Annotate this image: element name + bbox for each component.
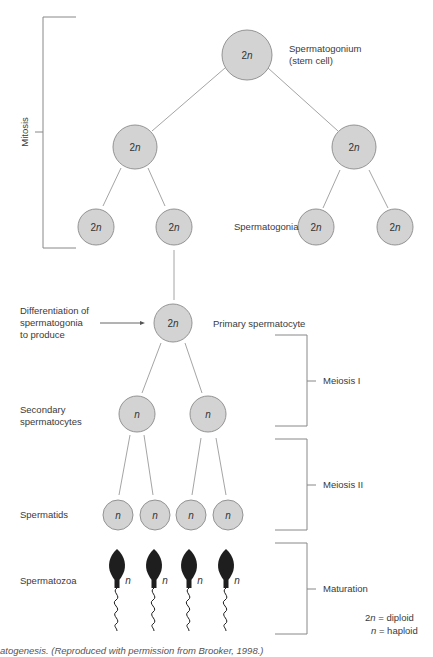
spermatozoon-4 — [218, 549, 234, 631]
mitosis-bracket-label: Mitosis — [19, 114, 31, 150]
meiosis-2-bracket — [275, 439, 316, 530]
spermatid-2-label: n — [152, 510, 158, 521]
primary-spermatocyte-label: Primary spermatocyte — [213, 318, 305, 330]
legend-diploid: 2n = diploid — [365, 612, 414, 624]
secondary-1-label: n — [134, 409, 140, 420]
spermatozoon-3 — [181, 549, 197, 631]
maturation-bracket — [275, 543, 316, 634]
spermatozoa-label: Spermatozoa — [20, 575, 77, 587]
spermatid-3-label: n — [188, 510, 194, 521]
primary-label: 2n — [167, 318, 179, 329]
mitosis-bracket — [35, 17, 76, 248]
spermatozoon-2-label: n — [162, 575, 168, 586]
meiosis-1-label: Meiosis I — [323, 375, 360, 387]
spermatozoon-4-label: n — [234, 575, 240, 586]
spermatids-label: Spermatids — [20, 509, 68, 521]
l3-1-label: 2n — [90, 222, 102, 233]
meiosis-1-bracket — [275, 335, 316, 426]
secondary-2-label: n — [205, 409, 211, 420]
l3-3-label: 2n — [310, 222, 322, 233]
secondary-spermatocytes-label: Secondary spermatocytes — [20, 404, 82, 428]
spermatozoon-2 — [146, 549, 162, 631]
figure-caption: atogenesis. (Reproduced with permission … — [0, 645, 264, 657]
l2-left-label: 2n — [129, 142, 141, 153]
spermatogonium-label: Spermatogonium (stem cell) — [289, 43, 361, 67]
legend-haploid: n = haploid — [371, 625, 418, 637]
spermatid-4-label: n — [225, 510, 231, 521]
spermatid-1-label: n — [115, 510, 121, 521]
maturation-label: Maturation — [323, 583, 368, 595]
spermatozoon-3-label: n — [197, 575, 203, 586]
differentiation-label: Differentiation of spermatogonia to prod… — [20, 305, 89, 341]
l3-2-label: 2n — [168, 222, 180, 233]
spermatozoon-1-label: n — [125, 575, 131, 586]
stem-cell-label: 2n — [241, 50, 253, 61]
differentiation-arrow — [100, 321, 145, 325]
spermatozoon-1 — [109, 549, 125, 631]
meiosis-2-label: Meiosis II — [323, 479, 363, 491]
l3-4-label: 2n — [389, 222, 401, 233]
l2-right-label: 2n — [348, 142, 360, 153]
spermatogonia-label: Spermatogonia — [234, 221, 298, 233]
